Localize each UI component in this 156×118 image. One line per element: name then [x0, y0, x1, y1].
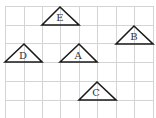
triangle-label: C — [92, 87, 100, 98]
triangle-d: D — [5, 44, 42, 62]
triangle-label: D — [19, 50, 27, 61]
triangle-label: A — [73, 50, 82, 61]
triangle-label: E — [56, 12, 63, 23]
triangle-label: B — [130, 31, 137, 42]
triangle-a: A — [60, 44, 97, 62]
triangle-grid-diagram: EBDAC — [0, 0, 156, 118]
